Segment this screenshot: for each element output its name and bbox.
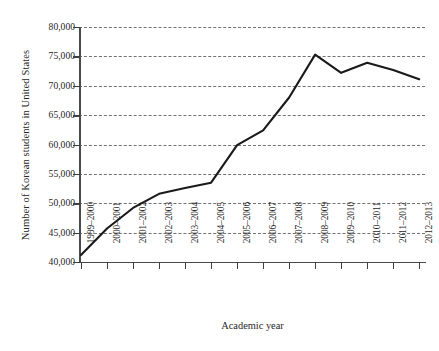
chart-figure: Number of Korean students in United Stat… bbox=[0, 0, 439, 351]
x-axis-tick-label: 2003–2004 bbox=[190, 202, 201, 272]
x-axis-tick-mark bbox=[107, 262, 108, 269]
x-axis-tick-mark bbox=[289, 262, 290, 269]
x-axis-tick-mark bbox=[367, 262, 368, 269]
x-axis-tick-label: 2010–2011 bbox=[372, 202, 383, 272]
x-axis-tick-label: 1999–2000 bbox=[86, 202, 97, 272]
y-axis-tick-mark bbox=[73, 56, 80, 57]
x-axis-tick-label: 2005–2006 bbox=[242, 202, 253, 272]
y-axis-tick-mark bbox=[73, 86, 80, 87]
y-axis-tick-label: 40,000 bbox=[31, 257, 75, 267]
x-axis-tick-label: 2002–2003 bbox=[164, 202, 175, 272]
x-axis-tick-label: 2006–2007 bbox=[268, 202, 279, 272]
caption-sliver bbox=[60, 346, 360, 351]
x-axis-tick-label: 2004–2005 bbox=[216, 202, 227, 272]
x-axis-tick-label: 2001–2002 bbox=[138, 202, 149, 272]
x-axis-tick-label: 2007–2008 bbox=[294, 202, 305, 272]
y-axis-tick-label: 50,000 bbox=[31, 198, 75, 208]
x-axis-tick-mark bbox=[419, 262, 420, 269]
y-axis-tick-mark bbox=[73, 174, 80, 175]
x-axis-tick-mark bbox=[185, 262, 186, 269]
y-axis-tick-label: 55,000 bbox=[31, 169, 75, 179]
x-axis-tick-mark bbox=[133, 262, 134, 269]
x-axis-tick-mark bbox=[341, 262, 342, 269]
y-axis-tick-mark bbox=[73, 233, 80, 234]
y-axis-tick-label: 70,000 bbox=[31, 81, 75, 91]
x-axis-title: Academic year bbox=[79, 320, 426, 331]
x-axis-tick-mark bbox=[393, 262, 394, 269]
y-axis-tick-labels: 40,00045,00050,00055,00060,00065,00070,0… bbox=[30, 0, 75, 351]
y-axis-tick-mark bbox=[73, 115, 80, 116]
x-axis-tick-label: 2011–2012 bbox=[398, 202, 409, 272]
x-axis-tick-mark bbox=[315, 262, 316, 269]
y-axis-tick-label: 65,000 bbox=[31, 110, 75, 120]
y-axis-tick-label: 60,000 bbox=[31, 140, 75, 150]
y-axis-tick-mark bbox=[73, 145, 80, 146]
y-axis-tick-mark bbox=[73, 262, 80, 263]
x-axis-tick-mark bbox=[237, 262, 238, 269]
y-axis-tick-label: 80,000 bbox=[31, 22, 75, 32]
x-axis-tick-label: 2012–2013 bbox=[424, 202, 435, 272]
x-axis-tick-mark bbox=[211, 262, 212, 269]
y-axis-tick-mark bbox=[73, 203, 80, 204]
x-axis-tick-label: 2000–2001 bbox=[112, 202, 123, 272]
x-axis-tick-mark bbox=[81, 262, 82, 269]
y-axis-tick-mark bbox=[73, 27, 80, 28]
x-axis-tick-label: 2009–2010 bbox=[346, 202, 357, 272]
x-axis-tick-mark bbox=[159, 262, 160, 269]
y-axis-tick-label: 75,000 bbox=[31, 51, 75, 61]
x-axis-tick-label: 2008–2009 bbox=[320, 202, 331, 272]
x-axis-tick-mark bbox=[263, 262, 264, 269]
y-axis-tick-label: 45,000 bbox=[31, 228, 75, 238]
